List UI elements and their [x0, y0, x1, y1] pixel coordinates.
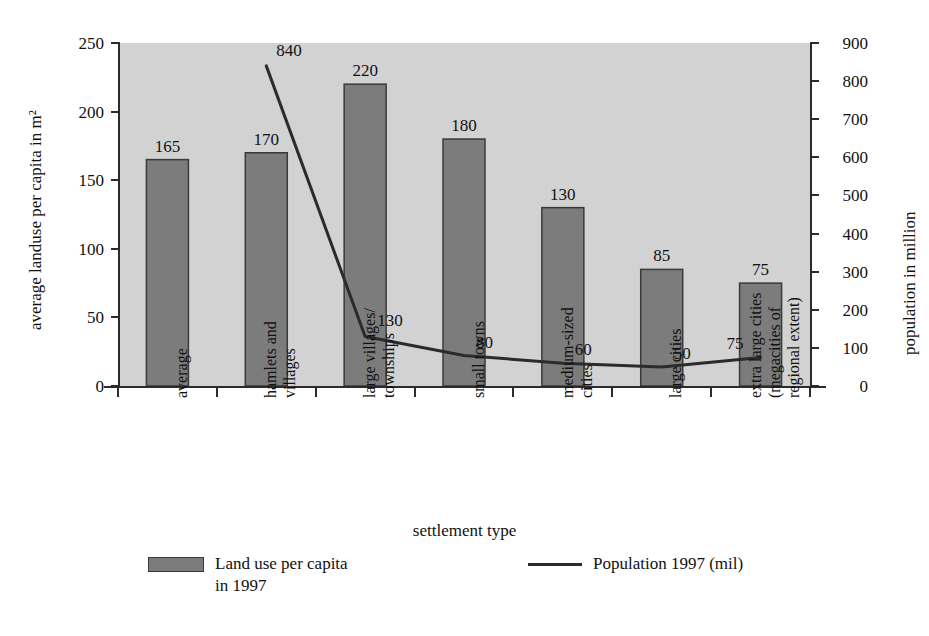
x-axis-category-label: extra large cities(megacities ofregional…	[746, 293, 803, 398]
chart-figure: 050100150200250 010020030040050060070080…	[0, 0, 929, 636]
x-axis-title: settlement type	[0, 521, 929, 541]
line-value-label: 80	[476, 334, 493, 351]
x-axis-tick	[611, 388, 613, 397]
y-axis-right-tick-label: 700	[826, 111, 868, 128]
legend-item-population: Population 1997 (mil)	[528, 553, 743, 575]
legend-item-label: Population 1997 (mil)	[593, 553, 743, 575]
y-axis-right-line	[810, 43, 812, 388]
y-axis-left-tick	[111, 111, 120, 113]
y-axis-left-tick	[111, 179, 120, 181]
y-axis-left-tick-label: 50	[56, 309, 104, 326]
y-axis-right-tick-label: 400	[826, 225, 868, 242]
category-label-line: villages	[280, 321, 299, 398]
y-axis-left-tick-label: 0	[56, 378, 104, 395]
category-label-line: hamlets and	[261, 321, 280, 398]
y-axis-left-tick	[111, 385, 120, 387]
y-axis-right-tick-label: 100	[826, 339, 868, 356]
category-label-line: large cities	[666, 329, 685, 398]
x-axis-tick	[710, 388, 712, 397]
x-axis-tick	[216, 388, 218, 397]
y-axis-right-tick	[810, 271, 819, 273]
category-label-line: regional extent)	[784, 293, 803, 398]
y-axis-left-tick-label: 200	[56, 103, 104, 120]
y-axis-right-tick	[810, 309, 819, 311]
y-axis-right-tick-label: 600	[826, 149, 868, 166]
y-axis-left-title: average landuse per capita in m²	[26, 110, 46, 330]
category-label-line: extra large cities	[746, 293, 765, 398]
x-axis-category-label: large cities	[666, 329, 685, 398]
y-axis-right-tick-label: 0	[826, 378, 868, 395]
y-axis-right-tick	[810, 347, 819, 349]
x-axis-tick	[512, 388, 514, 397]
y-axis-left-tick	[111, 316, 120, 318]
population-line	[266, 66, 760, 367]
line-value-label: 50	[674, 345, 691, 362]
bar-value-label: 130	[550, 186, 576, 203]
line-value-label: 60	[575, 341, 592, 358]
y-axis-left-tick-label: 250	[56, 35, 104, 52]
plot-area	[118, 43, 810, 386]
line-value-label: 75	[727, 335, 744, 352]
category-label-line: average	[172, 348, 191, 398]
y-axis-right-tick	[810, 80, 819, 82]
y-axis-left-tick	[111, 42, 120, 44]
y-axis-left-tick	[111, 248, 120, 250]
y-axis-right-tick-label: 900	[826, 35, 868, 52]
bar-value-label: 170	[254, 131, 280, 148]
legend-swatch-icon	[148, 557, 204, 572]
legend-line-icon	[528, 563, 582, 566]
x-axis-line	[104, 386, 826, 388]
line-value-label: 840	[276, 42, 302, 59]
x-axis-tick	[809, 388, 811, 397]
bar-value-label: 180	[451, 117, 477, 134]
y-axis-right-tick	[810, 194, 819, 196]
chart-legend: Land use per capita in 1997 Population 1…	[0, 553, 929, 623]
y-axis-right-tick-label: 800	[826, 73, 868, 90]
y-axis-right-tick	[810, 156, 819, 158]
bar-value-label: 75	[752, 261, 769, 278]
bar-value-label: 165	[155, 138, 181, 155]
legend-item-land-use: Land use per capita in 1997	[148, 553, 348, 597]
y-axis-right-tick	[810, 118, 819, 120]
legend-item-label: Land use per capita in 1997	[215, 553, 348, 597]
y-axis-right-tick	[810, 42, 819, 44]
y-axis-left-tick-label: 150	[56, 172, 104, 189]
x-axis-category-label: average	[172, 348, 191, 398]
line-layer	[118, 43, 810, 386]
y-axis-right-tick-label: 200	[826, 301, 868, 318]
line-value-label: 130	[377, 312, 403, 329]
y-axis-right-tick	[810, 233, 819, 235]
x-axis-category-label: hamlets andvillages	[261, 321, 299, 398]
y-axis-right-tick-label: 300	[826, 263, 868, 280]
y-axis-left-tick-label: 100	[56, 240, 104, 257]
category-label-line: (megacities of	[765, 293, 784, 398]
y-axis-left-line	[118, 43, 120, 388]
y-axis-right-title: population in million	[900, 211, 920, 355]
y-axis-right-tick-label: 500	[826, 187, 868, 204]
bar-value-label: 220	[352, 62, 378, 79]
bar-value-label: 85	[653, 247, 670, 264]
y-axis-right-tick	[810, 385, 819, 387]
x-axis-tick	[117, 388, 119, 397]
x-axis-tick	[414, 388, 416, 397]
x-axis-tick	[315, 388, 317, 397]
